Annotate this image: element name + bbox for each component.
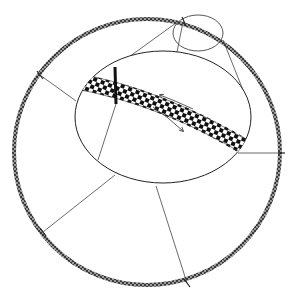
band-marker xyxy=(115,67,116,104)
diagram-svg xyxy=(0,0,294,303)
diagram-canvas xyxy=(0,0,294,303)
inner-ellipse xyxy=(70,51,260,183)
